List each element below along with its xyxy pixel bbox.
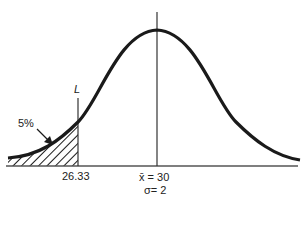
mean-label: x̄ = 30 <box>139 172 169 183</box>
tail-percent-label: 5% <box>18 118 34 129</box>
cutoff-symbol-label: L <box>74 84 80 95</box>
bell-curve <box>8 30 300 160</box>
cutoff-value-label: 26.33 <box>62 171 90 182</box>
sigma-label: σ= 2 <box>144 185 166 196</box>
